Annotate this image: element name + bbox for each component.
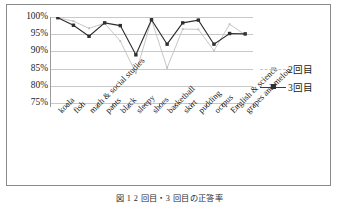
legend-entry-0: 2回目	[260, 61, 326, 79]
chart-frame: 100%95%90%85%80%75% koalafishmath & soci…	[6, 4, 331, 186]
figure: 100%95%90%85%80%75% koalafishmath & soci…	[0, 0, 339, 205]
figure-caption: 図 1 2 回目・3 回目の正答率	[0, 191, 339, 205]
legend-marker-icon	[271, 67, 274, 70]
legend-entry-1: 3回目	[260, 79, 326, 97]
legend-label: 2回目	[288, 62, 313, 76]
legend-marker-icon	[271, 84, 276, 89]
chart-legend: 2回目 3回目	[260, 61, 326, 101]
legend-label: 3回目	[288, 80, 313, 94]
